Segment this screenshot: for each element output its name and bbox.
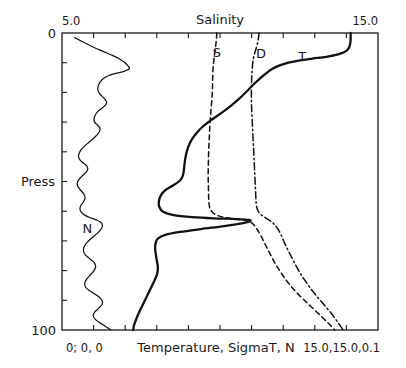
series-group <box>75 33 351 330</box>
bottom-axis-max-label: 15.0,15.0,0.1 <box>303 341 380 355</box>
left-axis-ticks <box>62 63 67 301</box>
bottom-axis-ticks <box>94 325 347 330</box>
curve-label-N: N <box>82 221 92 236</box>
top-axis-title: Salinity <box>196 12 244 27</box>
curve-label-T: T <box>297 49 306 64</box>
oceanographic-profile-chart: 5.0 Salinity 15.0 0 100 Press 0; 0, 0 Te… <box>0 0 406 368</box>
top-axis-min-label: 5.0 <box>62 14 80 28</box>
bottom-axis-title: Temperature, SigmaT, N <box>136 340 294 355</box>
chart-page: 5.0 Salinity 15.0 0 100 Press 0; 0, 0 Te… <box>0 0 406 368</box>
plot-frame <box>62 33 378 330</box>
series-curve-N <box>75 37 130 330</box>
series-curve-D <box>251 33 343 330</box>
curve-label-S: S <box>213 45 221 60</box>
series-curve-S <box>208 33 335 330</box>
y-axis-min-label: 0 <box>48 26 56 41</box>
series-curve-T <box>133 33 350 330</box>
plot-border <box>62 33 378 330</box>
top-axis-ticks <box>94 33 347 38</box>
top-axis-max-label: 15.0 <box>352 14 378 28</box>
bottom-axis-min-label: 0; 0, 0 <box>66 341 103 355</box>
curve-label-D: D <box>256 46 266 61</box>
y-axis-max-label: 100 <box>31 323 56 338</box>
y-axis-title: Press <box>21 174 55 189</box>
